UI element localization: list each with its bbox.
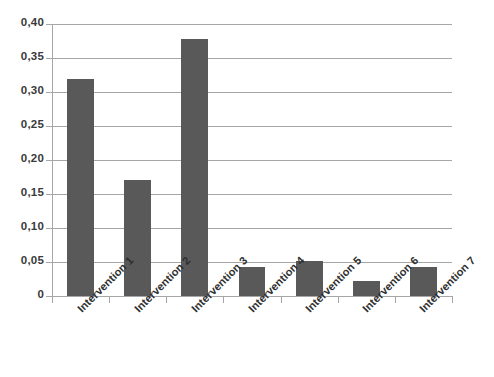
x-axis-tick-label: Intervention 3 xyxy=(189,254,249,314)
x-axis-tick-label: Intervention 7 xyxy=(417,254,477,314)
chart-page: 00,050,100,150,200,250,300,350,40 Interv… xyxy=(0,0,494,377)
x-axis-tick-label: Intervention 6 xyxy=(360,254,420,314)
x-axis-tick-label: Intervention 2 xyxy=(132,254,192,314)
x-axis-tick-label: Intervention 5 xyxy=(303,254,363,314)
x-axis-labels: Intervention 1Intervention 2Intervention… xyxy=(0,0,494,377)
x-axis-tick-label: Intervention 4 xyxy=(246,254,306,314)
x-axis-tick-label: Intervention 1 xyxy=(75,254,135,314)
